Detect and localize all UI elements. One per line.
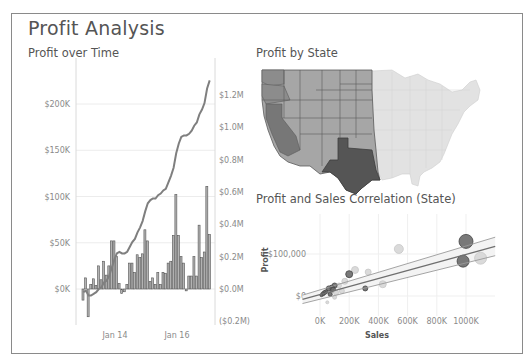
x-axis-tick: 0K: [315, 317, 326, 326]
x-axis-label: Sales: [365, 331, 389, 340]
x-axis-tick: 600K: [397, 317, 418, 326]
y-axis-tick: $100,000: [268, 250, 306, 259]
x-axis-tick: 200K: [339, 317, 360, 326]
state-point[interactable]: [346, 271, 353, 278]
state-point[interactable]: [326, 301, 329, 304]
y-axis-label: Profit: [261, 247, 270, 272]
correlation-scatter-chart[interactable]: 0K200K400K600K800K1000K$100,000$0SalesPr…: [0, 0, 531, 363]
state-point[interactable]: [328, 292, 332, 296]
state-point[interactable]: [394, 244, 403, 253]
x-axis-tick: 1000K: [453, 317, 479, 326]
x-axis-tick: 400K: [368, 317, 389, 326]
state-point[interactable]: [365, 269, 371, 275]
x-axis-tick: 800K: [427, 317, 448, 326]
